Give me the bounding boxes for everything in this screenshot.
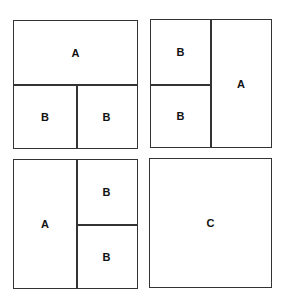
cell-b-bottom-left: B xyxy=(14,85,76,148)
cell-a-left: A xyxy=(14,160,76,288)
cell-c-full: C xyxy=(150,159,271,287)
cell-b-bottom-right: B xyxy=(77,226,136,287)
cell-b-bottom-left: B xyxy=(151,85,210,147)
cell-b-top-right: B xyxy=(77,160,136,224)
cell-a-right: A xyxy=(212,20,270,147)
layout-panel-2: B B A xyxy=(150,19,272,148)
layout-panel-4: C xyxy=(149,158,272,288)
cell-a-top: A xyxy=(14,21,137,85)
cell-b-bottom-right: B xyxy=(77,85,136,148)
cell-b-top-left: B xyxy=(151,20,210,84)
layout-panel-3: A B B xyxy=(13,159,138,289)
layout-panel-1: A B B xyxy=(13,20,138,149)
